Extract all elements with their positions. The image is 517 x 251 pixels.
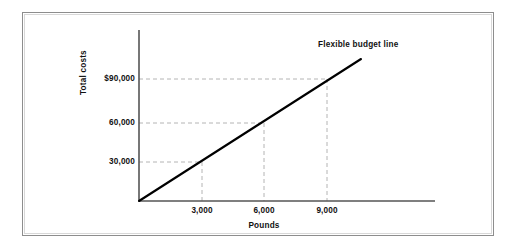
x-tick-label-9000: 9,000 <box>302 206 352 215</box>
series-annotation-label: Flexible budget line <box>318 40 398 49</box>
y-tick-label-60000: 60,000 <box>83 118 135 127</box>
y-axis-title: Total costs <box>79 35 88 95</box>
x-axis-title: Pounds <box>229 221 299 230</box>
x-tick-label-6000: 6,000 <box>239 206 289 215</box>
x-tick-label-3000: 3,000 <box>177 206 227 215</box>
flexible-budget-line <box>139 59 361 201</box>
y-tick-label-30000: 30,000 <box>83 157 135 166</box>
y-tick-label-90000: $90,000 <box>83 74 135 83</box>
